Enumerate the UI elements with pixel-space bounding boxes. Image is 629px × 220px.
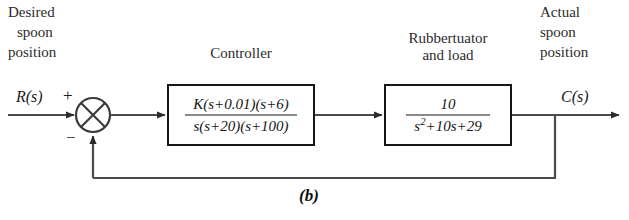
block-diagram: Desired spoon position R(s) + − Controll… [0,0,629,220]
output-label-line-2: spoon [540,24,576,41]
input-label-line-3: position [8,44,56,61]
summing-junction-plus-sign: + [63,87,73,104]
input-signal-label: R(s) [16,88,43,106]
plant-denominator-rest: +10s+29 [426,118,482,134]
output-label-line-1: Actual [540,4,580,21]
plant-title-line-1: Rubbertuator [373,30,523,47]
figure-caption: (b) [299,186,319,206]
plant-denominator: s2+10s+29 [406,115,489,136]
plant-numerator: 10 [406,95,489,115]
controller-transfer-function: K(s+0.01)(s+6) s(s+20)(s+100) [169,95,313,136]
input-label-line-2: spoon [17,24,53,41]
input-label-line-1: Desired [8,4,55,21]
output-label-line-3: position [540,44,588,61]
plant-block: 10 s2+10s+29 [384,84,512,146]
controller-block: K(s+0.01)(s+6) s(s+20)(s+100) [167,84,315,146]
controller-title: Controller [166,45,316,62]
controller-denominator: s(s+20)(s+100) [185,115,296,136]
output-signal-label: C(s) [561,88,589,106]
plant-transfer-function: 10 s2+10s+29 [386,95,510,136]
controller-numerator: K(s+0.01)(s+6) [185,95,297,115]
summing-junction-minus-sign: − [66,129,76,146]
plant-title-line-2: and load [373,47,523,64]
